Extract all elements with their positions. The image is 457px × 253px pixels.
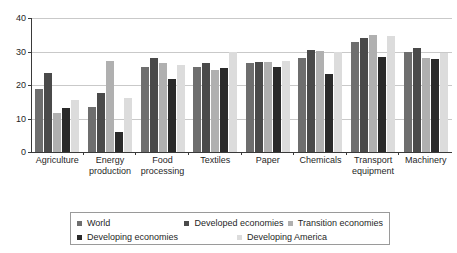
bar	[298, 58, 306, 152]
bar	[211, 70, 219, 152]
legend-swatch-developed-economies	[184, 221, 189, 226]
bar	[124, 98, 132, 152]
bar	[202, 63, 210, 152]
legend-label-developed-economies: Developed economies	[194, 218, 283, 228]
legend-row-1: World Developed economies Transition eco…	[77, 216, 383, 230]
bar	[193, 67, 201, 152]
x-axis-label-line1: Paper	[242, 155, 295, 166]
bar	[351, 42, 359, 152]
y-tick-label-40: 40	[6, 13, 26, 23]
bar-group	[189, 18, 242, 152]
bar	[106, 61, 114, 152]
bar	[141, 67, 149, 152]
x-axis-label-line1: Agriculture	[31, 155, 84, 166]
bar	[413, 48, 421, 152]
bar	[378, 57, 386, 152]
bar-group	[294, 18, 347, 152]
x-axis-label-line2: processing	[136, 166, 189, 177]
bar	[246, 63, 254, 152]
x-axis-label-line1: Textiles	[189, 155, 242, 166]
x-axis-label: Paper	[242, 155, 295, 183]
bar	[62, 108, 70, 152]
bar	[88, 107, 96, 152]
x-axis-label-line2: production	[84, 166, 137, 177]
x-axis-label-line1: Transport	[347, 155, 400, 166]
bar-group	[136, 18, 189, 152]
x-axis-line	[31, 152, 452, 153]
bar	[255, 62, 263, 152]
bar-group	[84, 18, 137, 152]
legend-swatch-world	[77, 221, 82, 226]
legend-row-2: Developing economies Developing America	[77, 230, 383, 244]
bar-chart: 40 30 20 10 0 AgricultureEnergyproductio…	[0, 0, 457, 253]
legend-item-developing-america: Developing America	[237, 232, 327, 242]
x-axis-label: Textiles	[189, 155, 242, 183]
y-tick-label-10: 10	[6, 114, 26, 124]
bar	[307, 50, 315, 153]
x-axis-labels: AgricultureEnergyproductionFoodprocessin…	[31, 155, 452, 183]
bar	[159, 63, 167, 152]
x-axis-label: Transportequipment	[347, 155, 400, 183]
x-axis-label: Agriculture	[31, 155, 84, 183]
bar-group	[31, 18, 84, 152]
legend-swatch-transition-economies	[288, 221, 293, 226]
bar	[316, 51, 324, 153]
bar	[387, 36, 395, 152]
bar	[440, 53, 448, 152]
bar	[71, 100, 79, 152]
x-axis-label-line1: Food	[136, 155, 189, 166]
x-axis-label-line1: Machinery	[399, 155, 452, 166]
x-axis-label-line1: Chemicals	[294, 155, 347, 166]
bar	[273, 67, 281, 152]
bar	[220, 68, 228, 152]
bar	[53, 113, 61, 152]
legend-item-transition-economies: Transition economies	[288, 218, 383, 228]
y-tick-label-0: 0	[6, 147, 26, 157]
bar	[369, 35, 377, 152]
legend-item-developed-economies: Developed economies	[184, 218, 287, 228]
bar	[35, 89, 43, 152]
bar	[97, 93, 105, 152]
y-tick-label-30: 30	[6, 47, 26, 57]
bar	[360, 38, 368, 152]
legend-swatch-developing-economies	[77, 235, 82, 240]
bar	[282, 61, 290, 152]
legend-item-developing-economies: Developing economies	[77, 232, 237, 242]
legend-label-transition-economies: Transition economies	[298, 218, 383, 228]
legend-label-developing-america: Developing America	[247, 232, 327, 242]
bar-group	[242, 18, 295, 152]
x-axis-label: Chemicals	[294, 155, 347, 183]
bar	[168, 79, 176, 152]
bar	[325, 74, 333, 152]
bar-group	[347, 18, 400, 152]
x-axis-label: Foodprocessing	[136, 155, 189, 183]
bar	[431, 59, 439, 152]
y-tick-label-20: 20	[6, 80, 26, 90]
legend-label-world: World	[87, 218, 110, 228]
bar	[422, 58, 430, 152]
bar	[404, 52, 412, 152]
bar	[150, 58, 158, 152]
legend-item-world: World	[77, 218, 184, 228]
x-axis-label-line2: equipment	[347, 166, 400, 177]
legend-label-developing-economies: Developing economies	[87, 232, 178, 242]
x-axis-label-line1: Energy	[84, 155, 137, 166]
bar	[264, 62, 272, 152]
x-axis-label: Energyproduction	[84, 155, 137, 183]
legend-swatch-developing-america	[237, 235, 242, 240]
bar	[334, 52, 342, 153]
plot-area	[31, 18, 452, 152]
bar	[177, 65, 185, 152]
bar	[229, 52, 237, 153]
bar-group	[399, 18, 452, 152]
x-axis-label: Machinery	[399, 155, 452, 183]
legend: World Developed economies Transition eco…	[70, 212, 390, 245]
bar	[44, 73, 52, 152]
bar-groups	[31, 18, 452, 152]
bar	[115, 132, 123, 152]
